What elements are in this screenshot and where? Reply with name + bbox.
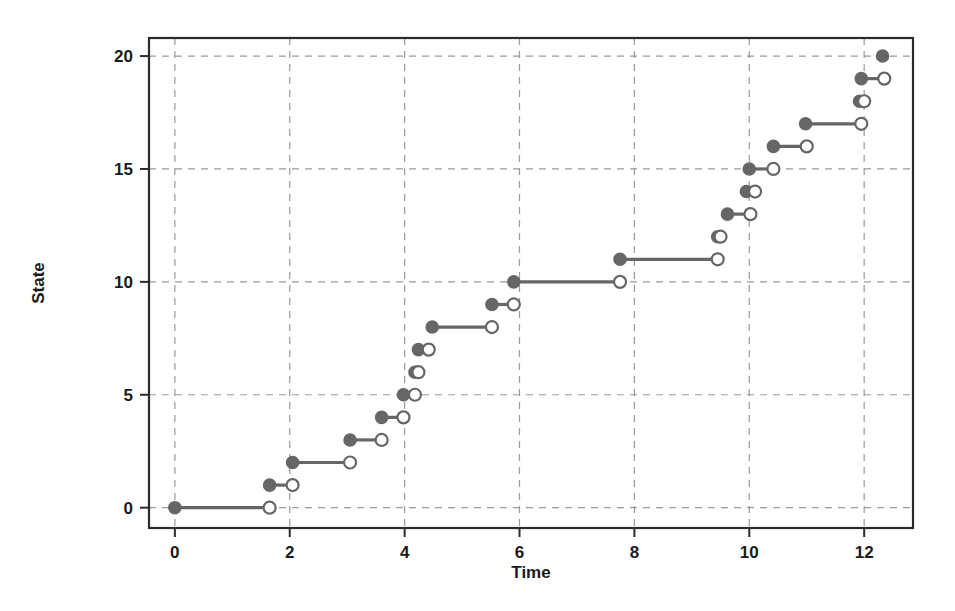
segment-start-marker [486, 298, 498, 310]
segment-start-marker [376, 411, 388, 423]
y-tick-label: 15 [114, 160, 133, 179]
segment-end-marker [344, 457, 356, 469]
segment-start-marker [344, 434, 356, 446]
segment-end-marker [412, 366, 424, 378]
segment-end-marker [855, 118, 867, 130]
segment-start-marker [767, 140, 779, 152]
x-tick-label: 4 [400, 543, 410, 562]
y-tick-label: 5 [124, 386, 133, 405]
segment-end-marker [409, 389, 421, 401]
segment-end-marker [508, 298, 520, 310]
y-tick-label: 20 [114, 47, 133, 66]
segment-start-marker [743, 163, 755, 175]
segment-end-marker [287, 479, 299, 491]
segment-start-marker [800, 118, 812, 130]
segment-start-marker [721, 208, 733, 220]
x-tick-label: 2 [285, 543, 294, 562]
segment-start-marker [169, 502, 181, 514]
x-tick-label: 10 [740, 543, 759, 562]
segment-start-marker [877, 50, 889, 62]
segment-end-marker [858, 95, 870, 107]
segment-start-marker [397, 389, 409, 401]
segment-start-marker [614, 253, 626, 265]
segment-end-marker [397, 411, 409, 423]
x-tick-label: 6 [515, 543, 524, 562]
segment-end-marker [767, 163, 779, 175]
segment-start-marker [287, 457, 299, 469]
x-axis-title: Time [511, 563, 550, 582]
chart-figure: 02468101205101520 Time State [0, 0, 955, 611]
segment-end-marker [376, 434, 388, 446]
segment-end-marker [486, 321, 498, 333]
segment-end-marker [801, 140, 813, 152]
segment-end-marker [744, 208, 756, 220]
segment-end-marker [423, 344, 435, 356]
segment-end-marker [715, 231, 727, 243]
segment-start-marker [426, 321, 438, 333]
step-plot-canvas: 02468101205101520 Time State [0, 0, 955, 611]
segment-start-marker [508, 276, 520, 288]
y-tick-label: 0 [124, 499, 133, 518]
x-tick-label: 0 [170, 543, 179, 562]
segment-end-marker [749, 186, 761, 198]
segment-end-marker [264, 502, 276, 514]
segment-end-marker [878, 73, 890, 85]
segment-start-marker [855, 73, 867, 85]
segment-end-marker [614, 276, 626, 288]
y-tick-label: 10 [114, 273, 133, 292]
segment-start-marker [264, 479, 276, 491]
y-axis-title: State [29, 262, 48, 304]
x-tick-label: 8 [630, 543, 639, 562]
x-tick-label: 12 [855, 543, 874, 562]
segment-end-marker [712, 253, 724, 265]
